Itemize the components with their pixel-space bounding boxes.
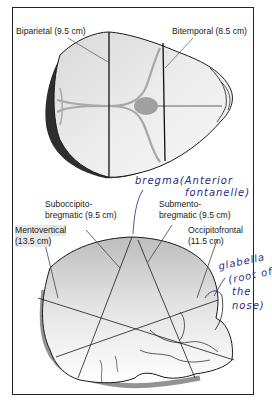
anterior-fontanelle [134, 97, 158, 115]
mentovertical-label-line2: (13.5 cm) [15, 236, 51, 247]
occipitofrontal-label-line1: Occipitofrontal [188, 225, 243, 236]
skull-illustration [0, 0, 272, 401]
submento-label-line2: bregmatic (9.5 cm) [159, 210, 231, 221]
mentovertical-label-line1: Mentovertical [15, 225, 66, 236]
bregma-annotation-line1: bregma(Anterior [135, 175, 233, 187]
biparietal-label: Biparietal (9.5 cm) [16, 26, 86, 37]
bregma-annotation-line2: fontanelle) [185, 187, 250, 199]
bitemporal-label: Bitemporal (8.5 cm) [172, 26, 247, 37]
occipitofrontal-label-line2: (11.5 cm) [188, 236, 224, 247]
bregma-arrow [133, 190, 143, 234]
top-view-skull [45, 32, 232, 178]
glabella-annotation-line3: the [232, 286, 251, 298]
submento-label-line1: Submento- [159, 199, 201, 210]
glabella-annotation-line4: nose) [232, 300, 265, 312]
suboccipito-label-line2: bregmatic (9.5 cm) [45, 210, 117, 221]
suboccipito-label-line1: Suboccipito- [45, 199, 92, 210]
